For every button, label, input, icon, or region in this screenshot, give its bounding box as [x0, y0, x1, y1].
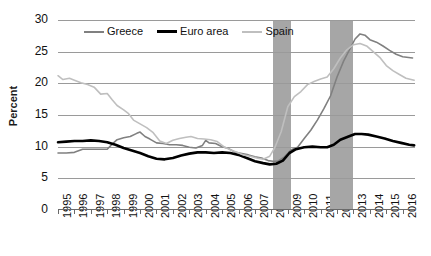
- legend-swatch-greece: [84, 31, 104, 33]
- legend-swatch-euro-area: [157, 30, 177, 33]
- legend-swatch-spain: [242, 31, 262, 33]
- x-tickmark-2009: [288, 210, 289, 214]
- x-tickmark-1995: [58, 210, 59, 214]
- y-tick-20: 20: [22, 76, 48, 88]
- x-tickmark-2010: [304, 210, 305, 214]
- x-tickmark-2002: [173, 210, 174, 214]
- y-axis-title: Percent: [7, 76, 19, 136]
- x-tickmark-2014: [370, 210, 371, 214]
- x-tickmark-1998: [107, 210, 108, 214]
- y-tick-0: 0: [22, 203, 48, 215]
- legend-item-greece: Greece: [84, 26, 143, 37]
- y-tick-10: 10: [22, 140, 48, 152]
- x-tickmark-1996: [74, 210, 75, 214]
- x-tickmark-2007: [255, 210, 256, 214]
- x-tickmark-2005: [222, 210, 223, 214]
- legend-label-spain: Spain: [265, 26, 293, 37]
- plot-area: [58, 20, 415, 210]
- legend-label-greece: Greece: [107, 26, 143, 37]
- x-tickmark-2004: [206, 210, 207, 214]
- x-tickmark-2001: [156, 210, 157, 214]
- legend-item-spain: Spain: [242, 26, 293, 37]
- x-tickmark-2000: [140, 210, 141, 214]
- x-tickmark-2006: [239, 210, 240, 214]
- legend-label-euro-area: Euro area: [180, 26, 228, 37]
- chart-legend: Greece Euro area Spain: [84, 26, 308, 37]
- series-line-spain: [58, 43, 414, 159]
- y-tick-25: 25: [22, 45, 48, 57]
- x-tickmark-2016: [403, 210, 404, 214]
- x-tickmark-1999: [124, 210, 125, 214]
- x-tickmark-2015: [386, 210, 387, 214]
- x-tickmark-2013: [353, 210, 354, 214]
- series-lines: [58, 20, 415, 210]
- x-tickmark-2012: [337, 210, 338, 214]
- legend-item-euro-area: Euro area: [157, 26, 228, 37]
- series-line-euro-area: [58, 134, 414, 164]
- x-tickmark-1997: [91, 210, 92, 214]
- x-tickmark-2003: [189, 210, 190, 214]
- x-tickmark-2008: [271, 210, 272, 214]
- x-tickmark-2011: [321, 210, 322, 214]
- unemployment-rate-line-chart: Percent 302520151050 1995199619971998199…: [0, 0, 431, 256]
- y-tick-15: 15: [22, 108, 48, 120]
- y-tick-30: 30: [22, 13, 48, 25]
- y-tick-5: 5: [22, 171, 48, 183]
